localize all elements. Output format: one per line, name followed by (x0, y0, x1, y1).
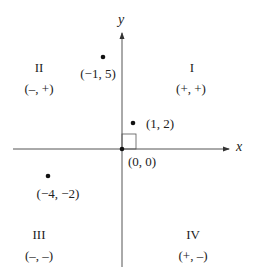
point-neg4-neg2 (46, 174, 51, 179)
y-axis-label: y (118, 13, 124, 27)
point-neg1-5 (101, 55, 106, 60)
quadrant-i-numeral: I (190, 61, 194, 74)
right-angle-marker (122, 134, 136, 149)
quadrant-iv-signs: (+, –) (179, 249, 208, 262)
quadrant-iv-numeral: IV (186, 228, 200, 241)
quadrant-ii-numeral: II (35, 61, 44, 74)
quadrant-i-signs: (+, +) (176, 82, 206, 95)
origin-label: (0, 0) (128, 155, 156, 168)
quadrant-iii-numeral: III (33, 228, 46, 241)
point-1-2 (131, 121, 136, 126)
quadrant-ii-signs: (–, +) (25, 82, 54, 95)
point-label-neg1-5: (−1, 5) (80, 67, 116, 80)
point-label-1-2: (1, 2) (146, 117, 174, 130)
x-axis-label: x (236, 140, 242, 154)
quadrant-iii-signs: (–, –) (25, 249, 53, 262)
origin-point (120, 147, 125, 152)
point-label-neg4-neg2: (−4, −2) (37, 187, 80, 200)
